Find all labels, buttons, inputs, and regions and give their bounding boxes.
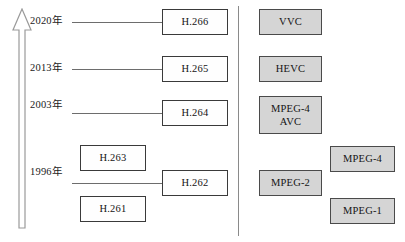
box-h265-label: H.265 <box>182 62 209 75</box>
box-mpeg2-label: MPEG-2 <box>271 176 310 189</box>
year-label-2003: 2003年 <box>30 100 62 111</box>
box-h266-label: H.266 <box>182 15 209 28</box>
box-h261[interactable]: H.261 <box>80 196 146 222</box>
box-mpeg4avc[interactable]: MPEG-4AVC <box>259 96 322 134</box>
box-mpeg4-label: MPEG-4 <box>343 152 382 165</box>
box-mpeg4avc-label: MPEG-4AVC <box>271 102 310 128</box>
box-h261-label: H.261 <box>100 202 127 215</box>
diagram-canvas: 2020年 2013年 2003年 1996年 H.266 H.265 H.26… <box>0 0 405 242</box>
box-h262-label: H.262 <box>182 176 209 189</box>
box-mpeg1[interactable]: MPEG-1 <box>330 198 395 224</box>
year-label-2020: 2020年 <box>30 16 62 27</box>
box-mpeg2[interactable]: MPEG-2 <box>259 170 322 196</box>
box-h266[interactable]: H.266 <box>162 9 228 35</box>
connector-2003 <box>72 113 162 114</box>
column-divider <box>238 6 239 236</box>
box-hevc-label: HEVC <box>276 62 305 75</box>
box-h263[interactable]: H.263 <box>80 145 146 171</box>
box-h264[interactable]: H.264 <box>162 100 228 126</box>
year-label-2013: 2013年 <box>30 63 62 74</box>
box-h264-label: H.264 <box>182 106 209 119</box>
year-label-1996: 1996年 <box>30 167 62 178</box>
connector-2013 <box>72 69 162 70</box>
box-vvc-label: VVC <box>279 15 302 28</box>
box-hevc[interactable]: HEVC <box>259 56 322 82</box>
box-h262[interactable]: H.262 <box>162 170 228 196</box>
box-mpeg1-label: MPEG-1 <box>343 204 382 217</box>
box-h265[interactable]: H.265 <box>162 56 228 82</box>
connector-2020 <box>72 22 162 23</box>
time-arrow-icon <box>11 8 33 230</box>
connector-1996 <box>72 183 162 184</box>
box-vvc[interactable]: VVC <box>259 9 322 35</box>
box-mpeg4[interactable]: MPEG-4 <box>330 146 395 172</box>
box-h263-label: H.263 <box>100 151 127 164</box>
